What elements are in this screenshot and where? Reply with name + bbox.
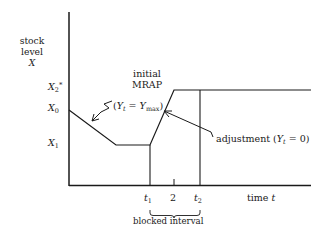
- y-tick-x1-base: X: [48, 137, 55, 148]
- x-tick-t1-sub: 1: [148, 197, 152, 205]
- x-tick-t2-sub: 2: [198, 197, 202, 205]
- initial-formula-eq: = Y: [126, 100, 146, 111]
- adjustment-text: adjustment: [216, 133, 273, 144]
- x-axis-label-var: t: [272, 192, 276, 203]
- x-axis-label: time t: [247, 192, 275, 203]
- initial-mrap-formula: (Yt = Ymax): [113, 100, 163, 113]
- x-tick-label-two: 2: [170, 192, 176, 203]
- initial-mrap-line2: MRAP: [112, 79, 182, 90]
- y-tick-x0-sub: 0: [55, 107, 59, 115]
- y-tick-label-x2star: X2*: [48, 81, 62, 94]
- y-tick-x1-sub: 1: [55, 142, 59, 150]
- initial-mrap-pointer: [92, 101, 112, 121]
- initial-formula-close: ): [159, 100, 163, 111]
- initial-formula-max: max: [146, 105, 160, 113]
- x-tick-two-base: 2: [170, 192, 176, 203]
- initial-mrap-label: initial MRAP: [112, 68, 182, 90]
- y-tick-x2star-sup: *: [59, 81, 62, 89]
- adjustment-label: adjustment (Yt = 0): [216, 133, 309, 146]
- x-axis-label-text: time: [247, 192, 272, 203]
- y-tick-label-x1: X1: [48, 137, 59, 150]
- adjustment-formula-eq: = 0): [286, 133, 310, 144]
- y-tick-x2star-base: X: [48, 81, 55, 92]
- x-tick-label-t1: t1: [144, 192, 152, 205]
- y-axis-label-line3: X: [8, 58, 56, 69]
- x-tick-label-t2: t2: [194, 192, 202, 205]
- adjustment-connector: [211, 132, 213, 137]
- figure-container: stock level X X2* X0 X1 initial MRAP (Yt…: [0, 0, 323, 233]
- initial-mrap-line1: initial: [112, 68, 182, 79]
- y-tick-x0-base: X: [48, 102, 55, 113]
- y-axis-label: stock level X: [8, 36, 56, 69]
- adjustment-pointer: [164, 111, 211, 132]
- blocked-interval-label: blocked interval: [133, 216, 203, 226]
- y-tick-label-x0: X0: [48, 102, 59, 115]
